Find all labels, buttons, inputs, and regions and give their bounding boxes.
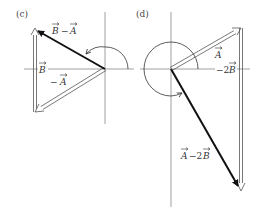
vector-B-c (31, 28, 39, 112)
label-neg-A: − A (50, 74, 67, 88)
panel-c-label: (c) (16, 9, 28, 19)
label-B-minus-A: B − A (51, 23, 77, 37)
svg-text:A: A (59, 77, 67, 87)
svg-text:A: A (214, 50, 222, 60)
panel-c-angle-arc (86, 47, 128, 69)
svg-text:B: B (38, 65, 46, 75)
svg-text:B: B (228, 65, 236, 75)
svg-text:−: − (50, 77, 58, 87)
vector-B-minus-A (38, 31, 105, 69)
label-neg-2B: −2 B (215, 62, 237, 76)
label-A-d: A (214, 47, 222, 61)
svg-text:B: B (202, 151, 210, 161)
label-B-c: B (38, 62, 48, 76)
svg-text:−2: −2 (216, 65, 229, 75)
svg-text:−: − (61, 26, 69, 36)
svg-text:−2: −2 (189, 151, 202, 161)
vector-A-minus-2B (171, 69, 238, 186)
panel-d-label: (d) (136, 9, 149, 19)
svg-text:B: B (51, 26, 59, 36)
label-A-minus-2B: A −2 B (180, 148, 210, 162)
vector-neg-2B (237, 28, 245, 191)
svg-text:A: A (69, 26, 77, 36)
panel-c: (c) B − A B (16, 9, 134, 124)
panel-d: (d) A −2 B A (136, 9, 250, 207)
vector-diagram: (c) B − A B (0, 0, 263, 218)
svg-text:A: A (180, 151, 188, 161)
